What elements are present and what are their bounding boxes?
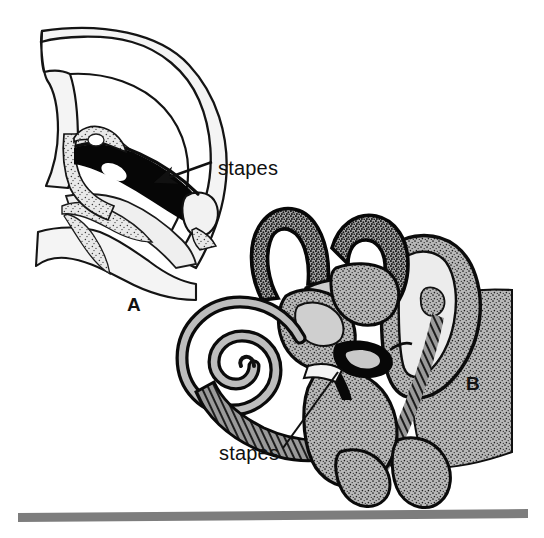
anatomy-figure: stapes stapes A B (0, 0, 544, 538)
vestibule-lumen-notch-b (421, 287, 445, 316)
panel-label-a: A (127, 295, 141, 314)
panel-label-b: B (466, 374, 480, 393)
stapes-label-panel-a: stapes (218, 158, 278, 178)
stapes-label-panel-b: stapes (219, 443, 279, 463)
stapes-crus-detail-a (88, 134, 104, 146)
